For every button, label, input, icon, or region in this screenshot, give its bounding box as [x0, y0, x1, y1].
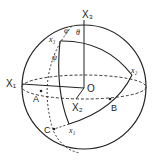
label-x2-point: x₂ [130, 66, 138, 75]
label-x3-axis: X₃ [82, 9, 93, 20]
arc-x3-x1 [59, 41, 69, 124]
arc-x3-x2 [60, 41, 132, 75]
label-origin: O [87, 83, 95, 94]
label-x3-point: x₃ [48, 35, 56, 44]
label-psi: ψ [52, 53, 58, 62]
rotation-sphere-diagram: X₃ X₁ X₂ O A B C x₁ x₂ x₃ φ θ ψ [0, 0, 157, 162]
label-b: B [111, 103, 117, 113]
label-c: C [44, 125, 51, 135]
axis-x2 [76, 88, 84, 99]
label-theta: θ [76, 28, 80, 37]
axis-x1 [22, 84, 84, 88]
point-b [109, 98, 112, 101]
arc-x2-x1 [69, 75, 132, 124]
label-phi: φ [64, 26, 69, 35]
label-x1-point: x₁ [68, 126, 76, 135]
dashed-c-x1 [54, 124, 69, 129]
point-a [40, 90, 43, 93]
point-c [53, 128, 56, 131]
label-x2-axis: X₂ [72, 102, 83, 113]
label-x1-axis: X₁ [6, 78, 17, 89]
label-a: A [33, 94, 39, 104]
